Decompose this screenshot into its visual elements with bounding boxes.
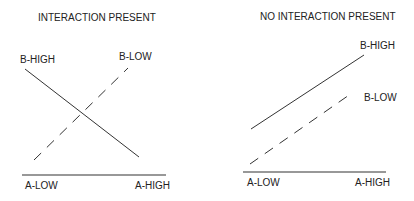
left-chart-title: INTERACTION PRESENT <box>38 12 156 23</box>
right-chart-title: NO INTERACTION PRESENT <box>260 11 396 22</box>
left-b-high-label: B-HIGH <box>20 54 55 65</box>
left-b-high-line <box>25 69 139 157</box>
right-b-high-line <box>251 55 364 129</box>
right-b-high-label: B-HIGH <box>360 40 395 51</box>
left-b-low-label: B-LOW <box>119 51 152 62</box>
left-b-low-line <box>34 68 128 160</box>
charts-canvas <box>0 0 414 201</box>
right-b-low-line <box>250 93 352 164</box>
right-a-low-label: A-LOW <box>247 177 280 188</box>
right-b-low-label: B-LOW <box>364 92 397 103</box>
left-a-high-label: A-HIGH <box>135 180 170 191</box>
right-a-high-label: A-HIGH <box>355 177 390 188</box>
left-a-low-label: A-LOW <box>25 180 58 191</box>
